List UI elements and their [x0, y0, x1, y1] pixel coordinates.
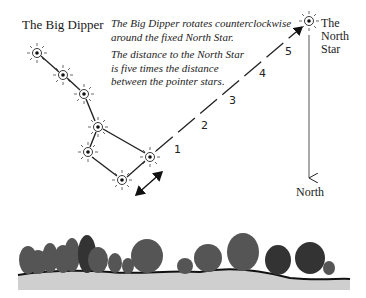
distance-marker-3: 3: [229, 94, 236, 107]
star-icon: [78, 142, 98, 162]
caption-line-4: is five times the distance: [111, 62, 219, 74]
distance-marker-2: 2: [201, 119, 208, 132]
landscape: [18, 233, 350, 290]
caption-line-5: between the pointer stars.: [111, 75, 225, 87]
star-icon: [88, 117, 108, 137]
distance-marker-1: 1: [174, 143, 181, 156]
distance-double-arrow: [136, 172, 162, 195]
caption-line-2: around the fixed North Star.: [111, 31, 234, 43]
star-icon: [74, 84, 94, 104]
star-icon: [27, 43, 47, 63]
caption-line-3: The distance to the North Star: [111, 48, 244, 60]
caption: The Big Dipper rotates counterclockwise …: [111, 17, 291, 93]
distance-marker-4: 4: [259, 67, 266, 80]
north-star-label: The North Star: [321, 17, 349, 56]
north-star-icon: [299, 11, 319, 31]
star-icon: [53, 65, 73, 85]
big-dipper-title: The Big Dipper: [22, 17, 104, 33]
caption-line-1: The Big Dipper rotates counterclockwise: [111, 17, 291, 29]
distance-marker-5: 5: [285, 45, 292, 58]
north-label: North: [296, 185, 324, 200]
star-icon: [112, 170, 132, 190]
